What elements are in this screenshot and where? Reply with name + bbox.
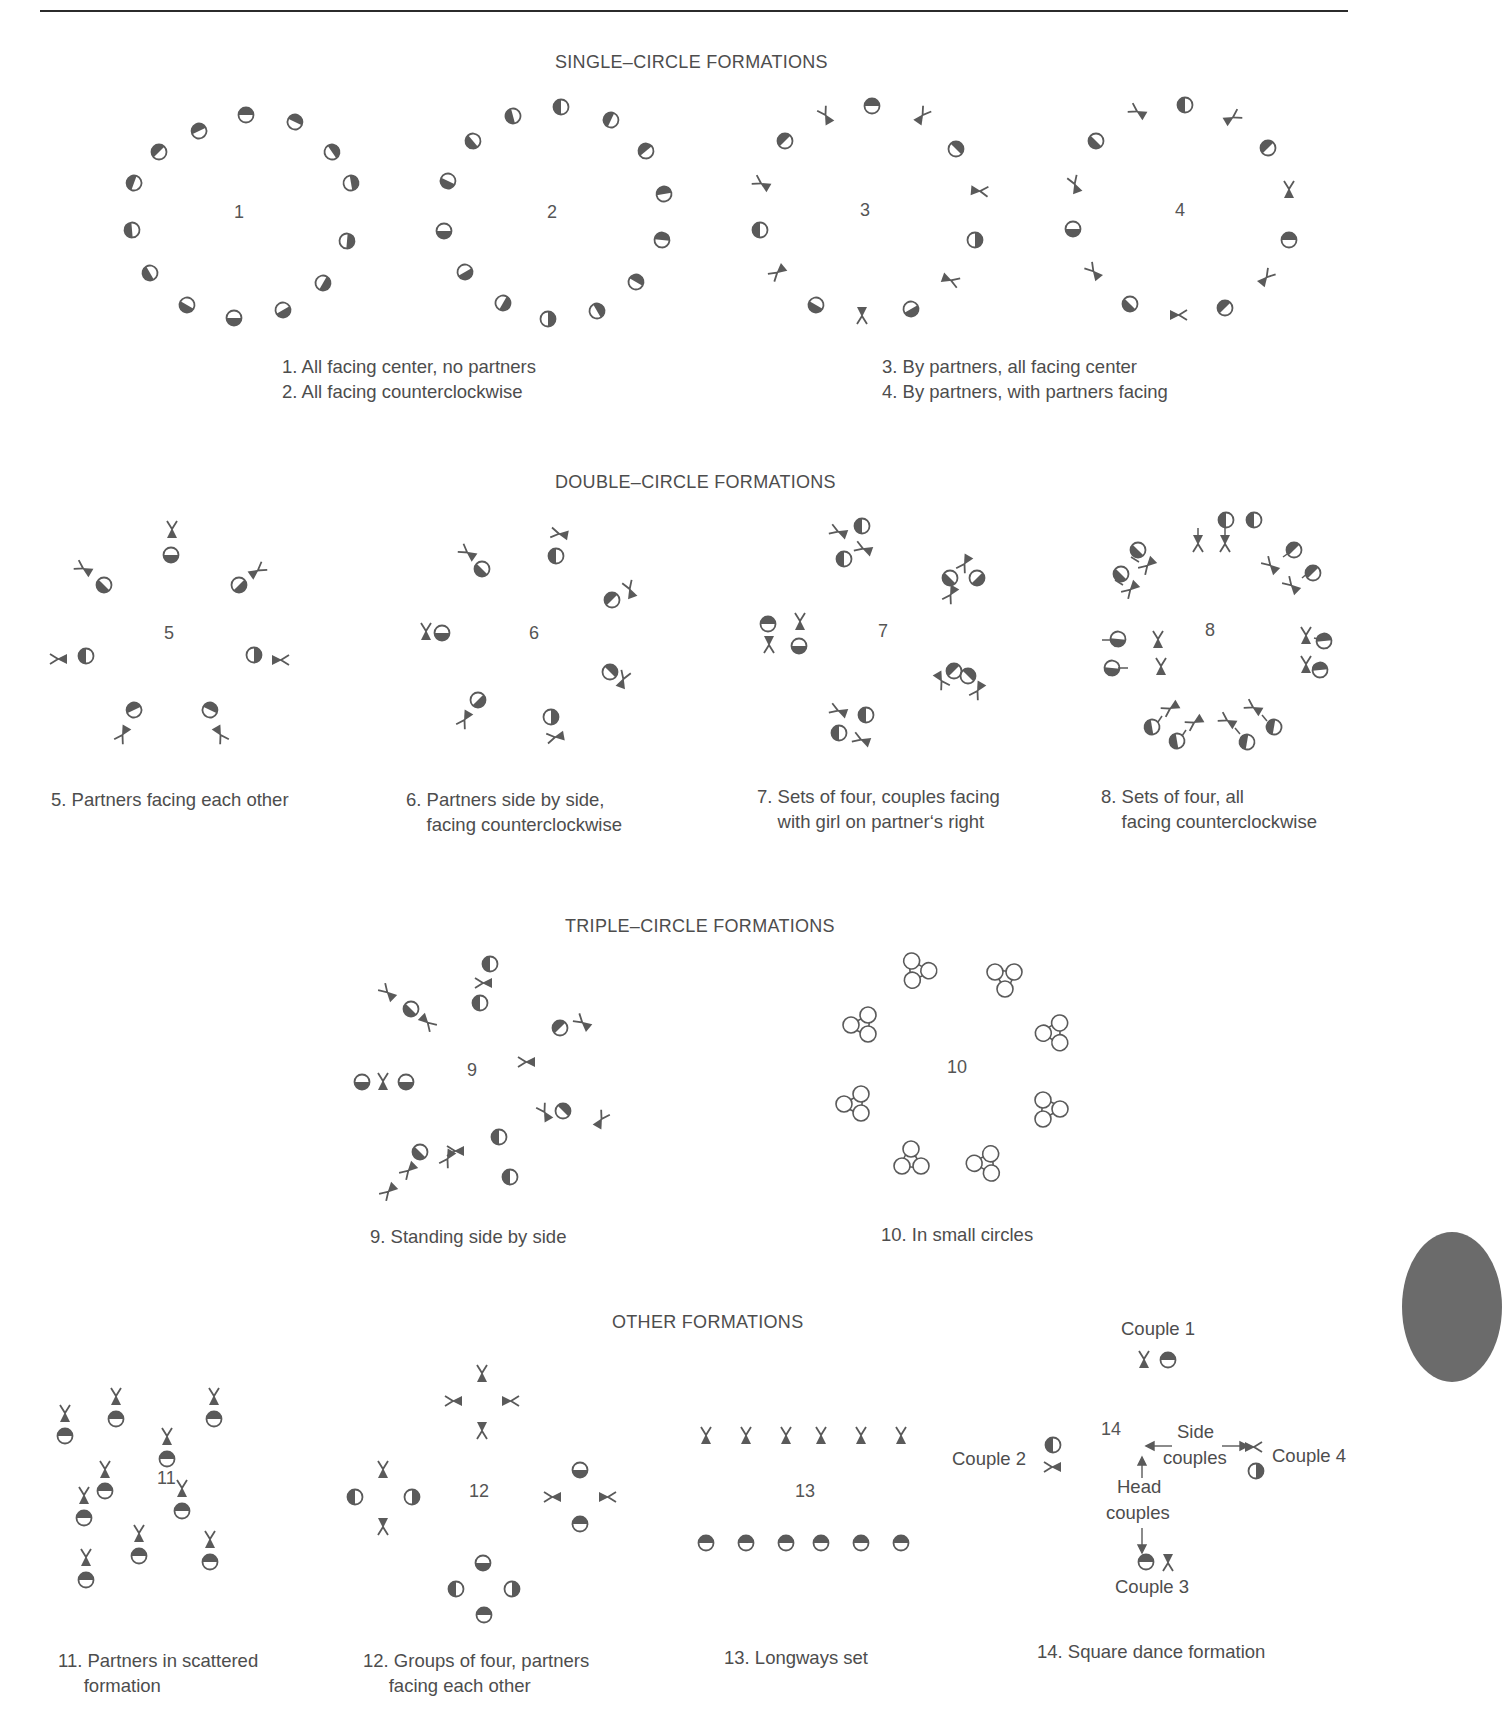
boy-icon (764, 636, 774, 653)
boy-icon (205, 1531, 215, 1548)
girl-icon (855, 519, 870, 534)
girl-icon (761, 617, 776, 632)
girl-icon (164, 548, 179, 563)
girl-icon (1066, 222, 1081, 237)
boy-icon (816, 1427, 826, 1444)
girl-icon (160, 1452, 175, 1467)
girl-icon (132, 1549, 147, 1564)
boy-icon (502, 1396, 519, 1406)
boy-icon (114, 725, 131, 745)
girl-icon (865, 99, 880, 114)
girl-icon (109, 1412, 124, 1427)
girl-icon (189, 121, 209, 141)
girl-icon (493, 293, 513, 313)
girl-icon (1302, 562, 1323, 583)
girl-icon (541, 312, 556, 327)
girl-icon (573, 1517, 588, 1532)
girl-icon (1257, 137, 1278, 158)
girl-icon (79, 649, 94, 664)
side-couples-label-line1: Side (1177, 1421, 1214, 1443)
boy-icon (50, 654, 67, 664)
girl-icon (77, 1511, 92, 1526)
girl-icon (753, 223, 768, 238)
girl-icon (504, 107, 522, 125)
girl-icon (503, 1170, 518, 1185)
boy-icon (550, 528, 568, 541)
girl-icon (467, 689, 488, 710)
boy-icon (781, 1427, 791, 1444)
girl-icon (968, 233, 983, 248)
couple-3-label: Couple 3 (1115, 1576, 1189, 1598)
boy-icon (477, 1365, 487, 1382)
boy-icon (852, 732, 871, 747)
girl-icon (1316, 633, 1332, 649)
boy-icon (134, 1525, 144, 1542)
boy-icon (418, 1013, 437, 1032)
boy-icon (854, 541, 873, 556)
boy-icon (1044, 1462, 1061, 1472)
boy-icon (768, 263, 787, 282)
boy-icon (1163, 1554, 1173, 1571)
girl-icon (342, 174, 359, 191)
girl-icon (247, 648, 262, 663)
girl-icon (894, 1536, 909, 1551)
girl-icon (1214, 297, 1235, 318)
boy-icon (209, 1388, 219, 1405)
girl-icon (1247, 513, 1262, 528)
girl-icon (599, 661, 620, 682)
boy-icon (1161, 700, 1181, 717)
girl-icon (832, 726, 847, 741)
small-circles-layer (836, 945, 1079, 1189)
girl-icon (339, 233, 355, 249)
girl-icon (227, 311, 242, 326)
girl-icon (1161, 1353, 1176, 1368)
boy-icon (1218, 712, 1238, 729)
side-couples-label-line2: couples (1163, 1447, 1227, 1469)
boy-icon (421, 623, 431, 640)
girl-icon (939, 567, 960, 588)
set-connector-lines (1102, 528, 1322, 736)
girl-icon (587, 301, 607, 321)
girl-icon (1249, 1464, 1264, 1479)
small-circle-group-icon (1035, 1092, 1068, 1127)
girl-icon (93, 574, 114, 595)
small-circle-group-icon (1032, 1008, 1079, 1054)
boy-icon (60, 1405, 70, 1422)
girl-icon (1046, 1438, 1061, 1453)
girl-icon (1312, 662, 1328, 678)
boy-icon (518, 1057, 535, 1067)
boy-icon (969, 681, 986, 701)
girl-icon (945, 138, 966, 159)
girl-icon (1085, 130, 1106, 151)
girl-icon (58, 1429, 73, 1444)
girl-icon (400, 998, 421, 1019)
boy-icon (1153, 631, 1163, 648)
head-couples-label-line2: couples (1106, 1502, 1170, 1524)
boy-icon (971, 185, 989, 196)
boy-icon (177, 1480, 187, 1497)
girl-icon (140, 263, 160, 283)
girl-icon (699, 1536, 714, 1551)
girl-icon (203, 1555, 218, 1570)
girl-icon (739, 1536, 754, 1551)
girl-icon (1127, 539, 1148, 560)
girl-icon (1219, 513, 1234, 528)
girl-icon (654, 232, 670, 248)
boy-icon (272, 655, 289, 665)
boy-icon (1067, 175, 1082, 194)
boy-icon (741, 1427, 751, 1444)
girl-icon (405, 1490, 420, 1505)
boy-icon (593, 1110, 610, 1130)
girl-icon (273, 300, 293, 320)
boy-icon (941, 273, 960, 288)
girl-icon (655, 185, 672, 202)
girl-icon (549, 1017, 570, 1038)
girl-icon (774, 130, 795, 151)
girl-icon (471, 558, 492, 579)
boy-icon (1156, 658, 1166, 675)
boy-icon (378, 1073, 388, 1090)
boy-icon (162, 1428, 172, 1445)
girl-icon (476, 1556, 491, 1571)
girl-icon (492, 1130, 507, 1145)
girl-icon (1265, 718, 1282, 735)
